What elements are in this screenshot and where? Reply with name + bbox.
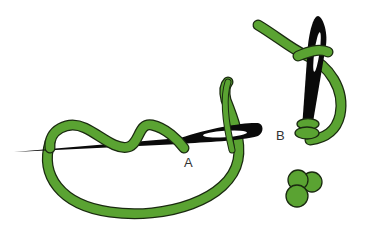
step-3-finished-knots — [286, 170, 322, 207]
wrap-bottom — [295, 127, 319, 139]
label-a: A — [184, 155, 193, 170]
french-knot-diagram: A B — [0, 0, 376, 233]
diagram-canvas — [0, 0, 376, 233]
step-2-needle-insert — [258, 16, 341, 140]
knot — [286, 185, 308, 207]
step-1-needle-wrap — [14, 82, 263, 214]
label-b: B — [276, 128, 285, 143]
